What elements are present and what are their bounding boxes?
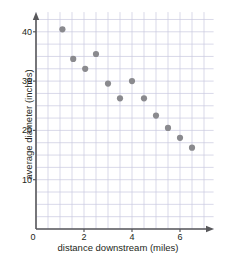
x-axis-arrow — [206, 226, 214, 232]
x-axis-title: distance downstream (miles) — [0, 242, 236, 253]
data-point — [59, 26, 65, 32]
x-tick-label: 6 — [177, 233, 182, 242]
data-point — [153, 113, 159, 119]
y-tick-label: 40 — [10, 27, 32, 36]
scatter-plot-figure: 10203040 0246 distance downstream (miles… — [0, 0, 236, 261]
x-tick-label: 2 — [81, 233, 86, 242]
data-point — [141, 95, 147, 101]
data-point — [177, 135, 183, 141]
data-point — [165, 125, 171, 131]
x-tick-label: 0 — [30, 233, 35, 242]
grid-lines — [36, 12, 214, 229]
data-point — [82, 66, 88, 72]
x-tick-label: 4 — [129, 233, 134, 242]
data-point — [129, 78, 135, 84]
data-point — [70, 56, 76, 62]
data-point — [117, 95, 123, 101]
data-point — [105, 80, 111, 86]
plot-canvas — [0, 0, 236, 261]
data-point — [93, 51, 99, 57]
data-point-group — [59, 26, 195, 151]
data-point — [189, 145, 195, 151]
y-axis-title: average diameter (inches) — [23, 45, 34, 205]
y-axis-arrow — [33, 12, 39, 20]
